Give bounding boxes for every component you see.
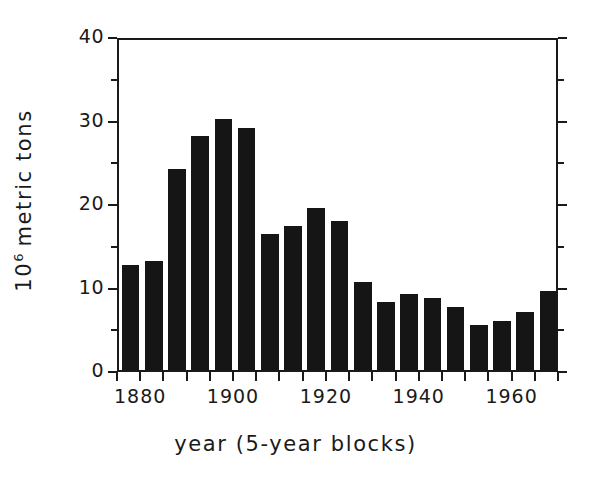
bar bbox=[400, 294, 418, 370]
x-axis-tick bbox=[139, 372, 141, 381]
x-axis-tick bbox=[278, 372, 280, 381]
y-axis-tick-major bbox=[108, 204, 117, 206]
x-axis-tick bbox=[487, 372, 489, 381]
bar bbox=[238, 128, 256, 370]
bar bbox=[145, 261, 163, 370]
x-axis-tick bbox=[209, 372, 211, 381]
x-axis-tick bbox=[325, 372, 327, 381]
plot-area bbox=[117, 38, 558, 372]
x-axis-tick bbox=[534, 372, 536, 381]
x-axis-tick bbox=[371, 372, 373, 381]
y-axis-tick-label: 0 bbox=[4, 359, 104, 381]
bar bbox=[331, 221, 349, 370]
bar bbox=[122, 265, 140, 370]
bar-series bbox=[119, 40, 556, 370]
y-axis-tick-major bbox=[108, 288, 117, 290]
bar bbox=[447, 307, 465, 370]
y-axis-tick-label: 10 bbox=[4, 276, 104, 298]
x-axis-tick bbox=[232, 372, 234, 381]
y-axis-tick-major bbox=[558, 288, 567, 290]
bar bbox=[261, 234, 279, 370]
x-axis-tick bbox=[255, 372, 257, 381]
x-axis-tick bbox=[186, 372, 188, 381]
bar bbox=[284, 226, 302, 370]
bar bbox=[470, 325, 488, 370]
x-axis-tick bbox=[557, 372, 559, 381]
x-axis-tick bbox=[348, 372, 350, 381]
y-axis-title-exponent: 6 bbox=[11, 253, 26, 261]
bar bbox=[424, 298, 442, 370]
x-axis-tick bbox=[162, 372, 164, 381]
x-axis-tick bbox=[302, 372, 304, 381]
x-axis-title: year (5-year blocks) bbox=[0, 432, 591, 456]
x-axis-tick bbox=[511, 372, 513, 381]
x-axis-tick bbox=[418, 372, 420, 381]
y-axis-tick-label: 20 bbox=[4, 192, 104, 214]
y-axis-tick-major bbox=[108, 121, 117, 123]
y-axis-tick-label: 40 bbox=[4, 25, 104, 47]
x-axis-tick bbox=[441, 372, 443, 381]
x-axis-tick-label: 1920 bbox=[286, 385, 366, 407]
bar bbox=[307, 208, 325, 370]
y-axis-tick-label: 30 bbox=[4, 109, 104, 131]
x-axis-tick bbox=[116, 372, 118, 381]
x-axis-tick bbox=[464, 372, 466, 381]
x-axis-tick-label: 1940 bbox=[379, 385, 459, 407]
x-axis-tick-label: 1880 bbox=[100, 385, 180, 407]
y-axis-tick-major bbox=[558, 371, 567, 373]
x-axis-tick-label: 1900 bbox=[193, 385, 273, 407]
y-axis-tick-minor bbox=[558, 162, 564, 164]
y-axis-tick-minor bbox=[558, 246, 564, 248]
bar bbox=[493, 321, 511, 370]
y-axis-tick-major bbox=[558, 204, 567, 206]
x-axis-tick bbox=[395, 372, 397, 381]
bar bbox=[516, 312, 534, 370]
y-axis-tick-minor bbox=[558, 79, 564, 81]
bar bbox=[377, 302, 395, 370]
y-axis-tick-major bbox=[108, 37, 117, 39]
bar-chart-figure: 106metric tons 010203040 188019001920194… bbox=[0, 0, 591, 485]
x-axis-tick-label: 1960 bbox=[472, 385, 552, 407]
bar bbox=[215, 119, 233, 370]
bar bbox=[168, 169, 186, 370]
bar bbox=[540, 291, 558, 370]
y-axis-tick-major bbox=[558, 37, 567, 39]
bar bbox=[354, 282, 372, 371]
y-axis-tick-minor bbox=[558, 329, 564, 331]
bar bbox=[191, 136, 209, 370]
y-axis-tick-major bbox=[558, 121, 567, 123]
